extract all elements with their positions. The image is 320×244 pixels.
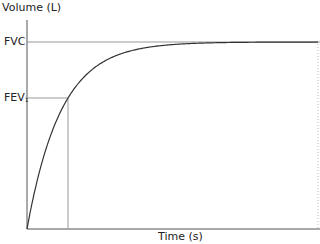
plot-area <box>0 0 320 244</box>
fev1-tick-label: FEV1 <box>4 91 29 104</box>
fev1-subscript: 1 <box>25 96 29 103</box>
fev1-main-text: FEV <box>4 91 25 104</box>
fvc-tick-label: FVC <box>4 35 26 48</box>
x-axis-label: Time (s) <box>158 230 203 243</box>
volume-time-curve <box>27 42 318 229</box>
spirometry-chart: Volume (L) FVC FEV1 Time (s) <box>0 0 320 244</box>
y-axis-label: Volume (L) <box>2 1 61 14</box>
